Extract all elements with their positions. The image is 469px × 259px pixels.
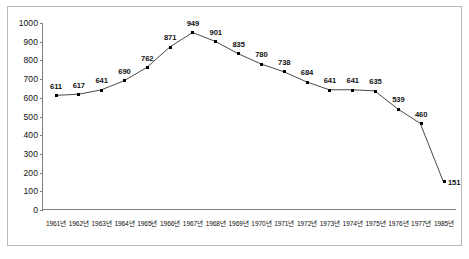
data-point-label: 641 — [347, 76, 359, 85]
data-point-label: 539 — [392, 95, 404, 104]
data-point-marker — [100, 89, 103, 92]
x-axis-tick-label: 1971년 — [274, 218, 294, 228]
data-point-label: 780 — [255, 50, 267, 59]
y-axis-tick-label: 1000 — [19, 18, 38, 28]
y-axis-tick-label: 300 — [24, 149, 38, 159]
x-axis-tick-label: 1968년 — [206, 218, 226, 228]
x-axis-tick-label: 1976년 — [388, 218, 408, 228]
y-axis-tick-label: 600 — [24, 93, 38, 103]
x-axis-tick-label: 1977년 — [411, 218, 431, 228]
y-axis-tick-mark — [40, 210, 43, 211]
x-axis-tick-label: 1966년 — [160, 218, 180, 228]
data-point-marker — [374, 90, 377, 93]
y-axis-tick-label: 100 — [24, 186, 38, 196]
data-point-label: 151 — [448, 177, 460, 186]
data-point-marker — [237, 52, 240, 55]
data-point-label: 762 — [141, 54, 153, 63]
data-point-label: 617 — [73, 81, 85, 90]
x-axis-tick-label: 1963년 — [92, 218, 112, 228]
data-point-marker — [214, 40, 217, 43]
chart-figure: 01002003004005006007008009001000 1961년19… — [7, 6, 462, 246]
y-axis-tick-label: 0 — [33, 205, 38, 215]
data-point-label: 460 — [415, 110, 427, 119]
x-axis-tick-label: 1985년 — [434, 218, 454, 228]
data-point-marker — [420, 122, 423, 125]
x-axis-tick-label: 1970년 — [251, 218, 271, 228]
x-axis-tick-label: 1964년 — [114, 218, 134, 228]
data-point-marker — [397, 108, 400, 111]
data-point-label: 641 — [324, 76, 336, 85]
x-axis-tick-label: 1975년 — [365, 218, 385, 228]
data-point-marker — [191, 31, 194, 34]
data-point-marker — [77, 93, 80, 96]
x-axis-tick-label: 1962년 — [69, 218, 89, 228]
data-point-marker — [55, 94, 58, 97]
x-axis-tick-label: 1965년 — [137, 218, 157, 228]
data-point-marker — [443, 180, 446, 183]
data-point-label: 901 — [210, 28, 222, 37]
y-axis-tick-label: 200 — [24, 168, 38, 178]
data-point-label: 738 — [278, 58, 290, 67]
data-point-label: 635 — [369, 77, 381, 86]
data-point-marker — [283, 70, 286, 73]
data-point-label: 684 — [301, 68, 313, 77]
x-axis-tick-label: 1972년 — [297, 218, 317, 228]
data-point-marker — [169, 46, 172, 49]
data-point-marker — [351, 89, 354, 92]
x-axis-tick-label: 1967년 — [183, 218, 203, 228]
line-series-path — [43, 23, 456, 209]
data-point-label: 835 — [232, 40, 244, 49]
y-axis-tick-label: 500 — [24, 112, 38, 122]
data-point-marker — [306, 81, 309, 84]
y-axis-tick-label: 800 — [24, 55, 38, 65]
y-axis-tick-label: 900 — [24, 37, 38, 47]
x-axis-tick-label: 1974년 — [343, 218, 363, 228]
data-point-marker — [328, 89, 331, 92]
data-point-marker — [123, 79, 126, 82]
y-axis-tick-label: 700 — [24, 74, 38, 84]
data-point-label: 871 — [164, 33, 176, 42]
data-point-label: 949 — [187, 19, 199, 28]
data-point-marker — [146, 66, 149, 69]
x-axis-tick-label: 1973년 — [320, 218, 340, 228]
plot-area: 01002003004005006007008009001000 1961년19… — [42, 23, 456, 210]
data-point-label: 611 — [50, 82, 62, 91]
x-axis-tick-label: 1961년 — [46, 218, 66, 228]
x-axis-tick-label: 1969년 — [228, 218, 248, 228]
data-point-label: 690 — [118, 67, 130, 76]
data-point-marker — [260, 63, 263, 66]
y-axis-tick-label: 400 — [24, 130, 38, 140]
data-point-label: 641 — [95, 76, 107, 85]
